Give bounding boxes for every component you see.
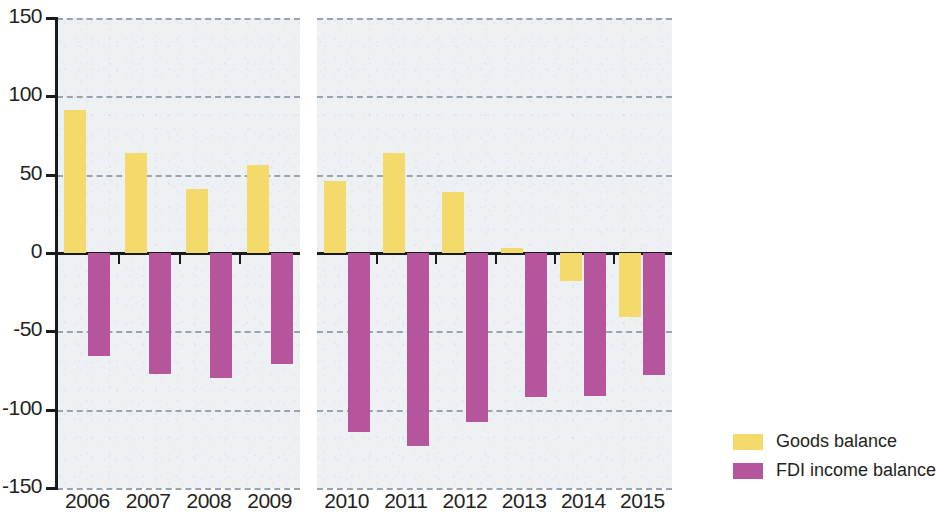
bar-goods-2010: [324, 181, 346, 253]
x-tick-label-2015: 2015: [602, 489, 682, 513]
bar-fdi-2008: [210, 253, 232, 378]
bar-goods-2006: [64, 110, 86, 253]
gridline--100: [57, 410, 300, 412]
bar-goods-2008: [186, 189, 208, 253]
y-tick-label--150: -150: [0, 474, 42, 498]
x-tick-2013: [554, 255, 556, 264]
legend-item-goods: Goods balance: [733, 427, 936, 456]
gridline-150: [57, 18, 300, 20]
gridline-50: [317, 175, 672, 177]
bar-fdi-2012: [466, 253, 488, 422]
bar-goods-2014: [560, 253, 582, 281]
y-tick-100: [46, 95, 58, 98]
legend-label-goods: Goods balance: [776, 431, 897, 452]
bar-fdi-2010: [348, 253, 370, 432]
x-tick-label-2009: 2009: [230, 489, 310, 513]
bar-goods-2011: [383, 153, 405, 253]
bar-goods-2013: [501, 248, 523, 253]
gridline-100: [317, 96, 672, 98]
gridline--100: [317, 410, 672, 412]
x-tick-2006: [118, 255, 120, 264]
y-tick-label--50: -50: [0, 317, 42, 341]
bar-goods-2012: [442, 192, 464, 253]
legend-swatch-fdi-icon: [733, 463, 763, 479]
legend-item-fdi: FDI income balance: [733, 456, 936, 485]
x-tick-2012: [495, 255, 497, 264]
x-tick-2014: [613, 255, 615, 264]
bar-fdi-2014: [584, 253, 606, 396]
gridline-100: [57, 96, 300, 98]
y-tick-50: [46, 174, 58, 177]
x-tick-2011: [435, 255, 437, 264]
y-tick--50: [46, 330, 58, 333]
legend-label-fdi: FDI income balance: [776, 460, 936, 481]
bar-fdi-2013: [525, 253, 547, 397]
bar-goods-2015: [619, 253, 641, 317]
bar-fdi-2007: [149, 253, 171, 374]
chart-legend: Goods balance FDI income balance: [733, 427, 936, 485]
bar-fdi-2011: [407, 253, 429, 446]
bar-fdi-2006: [88, 253, 110, 356]
bar-fdi-2015: [643, 253, 665, 375]
legend-swatch-goods-icon: [733, 434, 763, 450]
y-tick-label-50: 50: [0, 161, 42, 185]
y-tick-label--100: -100: [0, 396, 42, 420]
bar-fdi-2009: [271, 253, 293, 364]
x-tick-2010: [376, 255, 378, 264]
gridline--50: [317, 331, 672, 333]
y-tick-label-0: 0: [0, 239, 42, 263]
bar-goods-2009: [247, 165, 269, 253]
y-tick-0: [46, 252, 58, 255]
x-tick-2007: [179, 255, 181, 264]
y-tick-150: [46, 17, 58, 20]
x-tick-2008: [239, 255, 241, 264]
y-tick--100: [46, 409, 58, 412]
y-tick-label-100: 100: [0, 82, 42, 106]
gridline-150: [317, 18, 672, 20]
y-tick-label-150: 150: [0, 4, 42, 28]
bar-goods-2007: [125, 153, 147, 253]
